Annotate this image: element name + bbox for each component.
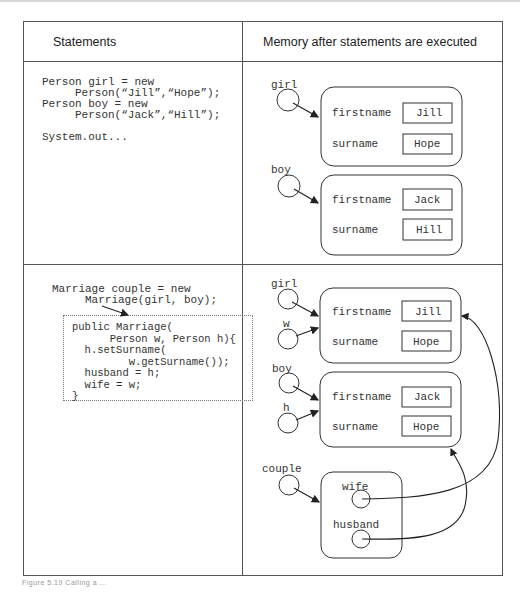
svg-text:husband: husband: [333, 519, 379, 531]
svg-text:h: h: [283, 402, 290, 414]
row2-var-h: h: [278, 402, 318, 433]
row1-var-boy: boy: [271, 164, 318, 203]
figure-caption: Figure 5.19 Calling a ...: [22, 579, 107, 586]
svg-text:Jill: Jill: [416, 107, 442, 119]
svg-text:Hope: Hope: [413, 421, 439, 433]
call-arrow: [102, 306, 128, 315]
row1-object-boy: firstname Jack surname Hill: [321, 175, 462, 255]
row2-var-girl: girl: [271, 278, 318, 316]
svg-text:surname: surname: [332, 421, 378, 433]
row2-object-boy: firstname Jack surname Hope: [320, 372, 461, 447]
row2-var-couple: couple: [262, 463, 319, 502]
svg-text:Jack: Jack: [414, 391, 441, 403]
svg-text:surname: surname: [332, 336, 378, 348]
row1-var-girl: girl: [271, 79, 318, 117]
svg-text:Hill: Hill: [416, 224, 442, 236]
row2-var-w: w: [278, 318, 318, 349]
row2-object-girl: firstname Jill surname Hope: [320, 288, 461, 363]
svg-text:surname: surname: [332, 138, 378, 150]
svg-text:surname: surname: [332, 224, 378, 236]
row1-object-girl: firstname Jill surname Hope: [321, 87, 462, 166]
svg-text:firstname: firstname: [332, 391, 391, 403]
row2-object-couple: wife husband: [321, 472, 402, 558]
svg-text:couple: couple: [262, 463, 302, 475]
svg-text:w: w: [283, 318, 290, 330]
svg-text:firstname: firstname: [332, 194, 391, 206]
svg-text:Hope: Hope: [413, 336, 439, 348]
svg-text:Jack: Jack: [414, 194, 441, 206]
svg-text:firstname: firstname: [332, 306, 391, 318]
svg-text:Jill: Jill: [415, 306, 441, 318]
row2-var-boy: boy: [272, 363, 318, 400]
svg-text:boy: boy: [271, 164, 291, 176]
svg-text:Hope: Hope: [414, 138, 440, 150]
svg-text:firstname: firstname: [332, 107, 391, 119]
memory-diagram: girl firstname Jill surname Hope boy fir…: [0, 0, 520, 593]
svg-text:girl: girl: [271, 278, 297, 290]
